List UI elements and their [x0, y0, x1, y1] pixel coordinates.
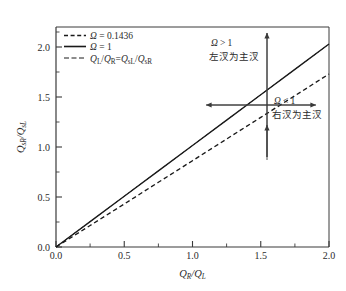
y-tick-label-4: 2.0: [38, 42, 51, 53]
chart-figure: 0.0 0.5 1.0 1.5 2.0 0.0 0.5 1.0 1.5 2.0: [0, 0, 346, 291]
legend-label-0: Ω = 0.1436: [90, 31, 133, 41]
legend-label-1: Ω = 1: [90, 42, 112, 52]
y-tick-label-1: 0.5: [38, 192, 51, 203]
y-tick-label-2: 1.0: [38, 142, 51, 153]
x-tick-label-4: 2.0: [323, 250, 336, 261]
upper-region-symbol: Ω> 1: [211, 38, 233, 48]
y-tick-label-3: 1.5: [38, 92, 51, 103]
y-tick-label-0: 0.0: [38, 242, 51, 253]
x-tick-label-2: 1.0: [186, 250, 199, 261]
lower-region-symbol: Ω< 1: [274, 96, 296, 106]
x-tick-label-0: 0.0: [50, 250, 63, 261]
x-tick-label-3: 1.5: [255, 250, 268, 261]
upper-region-label: 左汊为主汊: [209, 51, 259, 62]
lower-region-label: 右汊为主汊: [272, 109, 322, 120]
chart-svg: 0.0 0.5 1.0 1.5 2.0 0.0 0.5 1.0 1.5 2.0: [0, 0, 346, 291]
x-tick-label-1: 0.5: [118, 250, 131, 261]
